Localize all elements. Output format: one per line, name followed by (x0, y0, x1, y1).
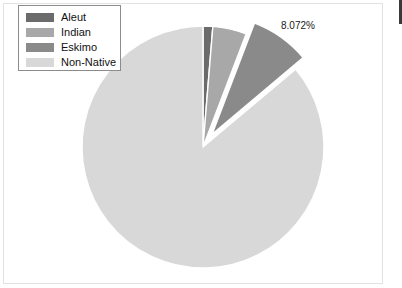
chart-canvas: 8.072% Aleut Indian Eskimo Non-Native (0, 0, 402, 288)
legend-label-indian: Indian (61, 26, 91, 38)
legend-item-eskimo[interactable]: Eskimo (26, 40, 115, 54)
legend-item-aleut[interactable]: Aleut (26, 10, 115, 24)
legend-swatch-non-native (26, 58, 54, 67)
legend-swatch-aleut (26, 13, 54, 22)
legend-item-non-native[interactable]: Non-Native (26, 55, 115, 69)
legend-label-eskimo: Eskimo (61, 41, 97, 53)
slice-percent-label-eskimo: 8.072% (281, 20, 315, 31)
legend-label-aleut: Aleut (61, 11, 86, 23)
legend-swatch-indian (26, 28, 54, 37)
chart-legend: Aleut Indian Eskimo Non-Native (18, 5, 121, 71)
legend-swatch-eskimo (26, 43, 54, 52)
legend-label-non-native: Non-Native (61, 56, 116, 68)
legend-item-indian[interactable]: Indian (26, 25, 115, 39)
